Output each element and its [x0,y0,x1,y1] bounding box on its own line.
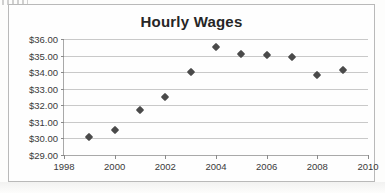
data-point [288,53,296,61]
x-axis-tick [165,155,166,159]
y-axis-label: $33.00 [29,83,58,94]
y-axis-label: $34.00 [29,67,58,78]
data-point [262,50,270,58]
scan-artifact-bottom [0,182,385,193]
gridline [64,56,368,57]
x-axis-tick [368,155,369,159]
chart-screenshot: Hourly Wages $29.00$30.00$31.00$32.00$33… [0,0,385,193]
x-axis-label: 2008 [307,161,328,172]
x-axis-label: 2004 [205,161,226,172]
gridline [64,72,368,73]
y-axis-label: $32.00 [29,100,58,111]
data-point [85,133,93,141]
y-axis-label: $35.00 [29,50,58,61]
data-point [186,68,194,76]
data-point [161,93,169,101]
x-axis-label: 1998 [53,161,74,172]
y-axis-label: $29.00 [29,150,58,161]
y-axis-tick [61,56,64,57]
x-axis-tick [267,155,268,159]
data-point [212,43,220,51]
y-axis-tick [61,89,64,90]
x-axis-tick [216,155,217,159]
y-axis-tick [61,105,64,106]
x-axis-tick [64,155,65,159]
y-axis-tick [61,122,64,123]
gridline [64,89,368,90]
y-axis-label: $31.00 [29,116,58,127]
gridline [64,138,368,139]
x-axis-label: 2002 [155,161,176,172]
x-axis-tick [115,155,116,159]
x-axis-tick [317,155,318,159]
data-point [136,106,144,114]
y-axis-label: $36.00 [29,34,58,45]
x-axis-label: 2010 [357,161,378,172]
gridline [64,39,368,40]
x-axis-label: 2006 [256,161,277,172]
x-axis-label: 2000 [104,161,125,172]
y-axis-tick [61,39,64,40]
y-axis-tick [61,138,64,139]
plot-area: $29.00$30.00$31.00$32.00$33.00$34.00$35.… [63,39,368,156]
data-point [110,126,118,134]
chart-title: Hourly Wages [9,13,374,30]
y-axis-label: $30.00 [29,133,58,144]
gridline [64,105,368,106]
gridline [64,122,368,123]
data-point [237,50,245,58]
y-axis-tick [61,72,64,73]
chart-frame: Hourly Wages $29.00$30.00$31.00$32.00$33… [8,4,375,182]
